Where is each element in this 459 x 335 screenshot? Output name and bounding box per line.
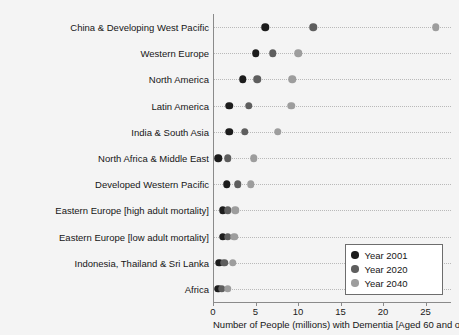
data-point [294,50,302,58]
x-tick-label: 25 [420,306,431,317]
category-axis-labels: China & Developing West PacificWestern E… [0,0,213,335]
data-point [252,50,260,58]
legend-item: Year 2001 [351,248,437,262]
category-label: India & South Asia [5,126,213,137]
data-point [220,259,228,267]
x-axis-line [213,302,451,303]
data-point [247,180,255,188]
data-point [232,207,240,215]
x-tick-label: 0 [210,306,215,317]
legend-item: Year 2040 [351,276,437,290]
legend-label: Year 2020 [365,264,408,275]
category-label: North Africa & Middle East [5,153,213,164]
category-label: Developed Western Pacific [5,179,213,190]
data-point [224,154,232,162]
legend: Year 2001Year 2020Year 2040 [345,244,443,295]
gridline-row [214,237,451,238]
x-tick-label: 5 [253,306,258,317]
legend-label: Year 2001 [365,250,408,261]
data-point [245,102,253,110]
category-label: Indonesia, Thailand & Sri Lanka [5,257,213,268]
gridline-row [214,210,451,211]
gridline-row [214,53,451,54]
legend-label: Year 2040 [365,278,408,289]
data-point [254,76,262,84]
data-point [226,128,234,136]
category-label: China & Developing West Pacific [5,22,213,33]
category-label: Eastern Europe [high adult mortality] [5,205,213,216]
data-point [224,285,232,293]
gridline-row [214,132,451,133]
x-tick-label: 20 [378,306,389,317]
x-axis-title: Number of People (millions) with Dementi… [213,319,459,330]
x-tick-label: 10 [293,306,304,317]
legend-dot-icon [351,251,359,259]
legend-dot-icon [351,279,359,287]
x-tick-label: 15 [335,306,346,317]
data-point [241,128,249,136]
legend-dot-icon [351,265,359,273]
data-point [432,23,440,31]
category-label: Western Europe [5,48,213,59]
data-point [250,154,258,162]
data-point [234,180,242,188]
data-point [231,233,239,241]
data-point [229,259,237,267]
dementia-dot-chart: China & Developing West PacificWestern E… [0,0,459,335]
category-label: Africa [5,283,213,294]
gridline-row [214,27,451,28]
category-label: Latin America [5,100,213,111]
data-point [288,102,296,110]
data-point [310,23,318,31]
data-point [223,180,231,188]
data-point [215,154,223,162]
data-point [288,76,296,84]
data-point [224,207,232,215]
gridline-row [214,79,451,80]
data-point [274,128,282,136]
data-point [226,102,234,110]
category-label: Eastern Europe [low adult mortality] [5,231,213,242]
data-point [269,50,277,58]
data-point [239,76,247,84]
data-point [261,23,269,31]
legend-item: Year 2020 [351,262,437,276]
category-label: North America [5,74,213,85]
